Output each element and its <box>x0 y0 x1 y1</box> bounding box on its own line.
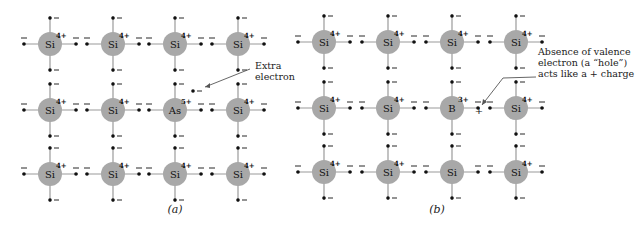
atom-charge: 4+ <box>56 97 67 106</box>
electron-dot <box>360 40 364 44</box>
electron-dot <box>450 14 454 18</box>
atom-symbol: Si <box>233 39 243 50</box>
atom-charge: 4+ <box>119 97 130 106</box>
electron-dot <box>48 68 52 72</box>
electron-dot <box>111 198 115 202</box>
atom-symbol: Si <box>170 39 180 50</box>
electron-dot <box>22 172 26 176</box>
atom-charge: 4+ <box>181 161 192 170</box>
atom-charge: 4+ <box>119 161 130 170</box>
atom-symbol: Si <box>170 169 180 180</box>
atom-charge: 4+ <box>458 29 469 38</box>
atom-symbol: Si <box>511 167 521 178</box>
atom-symbol: Si <box>447 167 457 178</box>
atom-symbol: Si <box>383 167 393 178</box>
electron-dot <box>540 170 544 174</box>
electron-dot <box>22 42 26 46</box>
atom-symbol: Si <box>108 105 118 116</box>
electron-dot <box>450 144 454 148</box>
atom-charge: 3+ <box>458 95 469 104</box>
electron-dot <box>514 80 518 84</box>
electron-dot <box>48 82 52 86</box>
electron-dot <box>210 42 214 46</box>
atom-symbol: Si <box>45 169 55 180</box>
electron-dot <box>322 14 326 18</box>
annotation-text: acts like a + charge <box>538 68 635 79</box>
electron-dot <box>173 16 177 20</box>
electron-dot <box>360 170 364 174</box>
electron-dot <box>262 172 266 176</box>
electron-dot <box>85 42 89 46</box>
electron-dot <box>111 146 115 150</box>
electron-dot <box>514 14 518 18</box>
electron-dot <box>296 170 300 174</box>
atom-charge: 4+ <box>330 95 341 104</box>
electron-dot <box>262 108 266 112</box>
electron-dot <box>85 172 89 176</box>
atom-symbol: Si <box>319 167 329 178</box>
atom-symbol: Si <box>511 103 521 114</box>
atom-charge: 4+ <box>330 29 341 38</box>
atom-symbol: B <box>448 103 455 114</box>
electron-dot <box>514 132 518 136</box>
atom-symbol: Si <box>319 37 329 48</box>
atom-charge: 4+ <box>244 97 255 106</box>
electron-dot <box>199 108 203 112</box>
atom-symbol: Si <box>383 37 393 48</box>
atom-charge: 4+ <box>522 95 533 104</box>
electron-dot <box>111 16 115 20</box>
electron-dot <box>412 106 416 110</box>
electron-dot <box>236 68 240 72</box>
atom-charge: 4+ <box>56 31 67 40</box>
arrowhead-icon <box>205 83 210 88</box>
atom-symbol: As <box>168 105 181 116</box>
electron-dot <box>386 66 390 70</box>
electron-dot <box>488 106 492 110</box>
electron-dot <box>322 196 326 200</box>
electron-dot <box>514 66 518 70</box>
electron-dot <box>322 80 326 84</box>
atom-charge: 4+ <box>244 31 255 40</box>
electron-dot <box>412 40 416 44</box>
panel-caption: (b) <box>429 203 445 216</box>
panel-b-p-type-lattice: Si4+Si4+Si4+Si4+Si4+Si4+B3+Si4+Si4+Si4+S… <box>295 14 635 216</box>
atom-charge: 4+ <box>181 31 192 40</box>
electron-dot <box>450 196 454 200</box>
atom-symbol: Si <box>511 37 521 48</box>
electron-dot <box>173 198 177 202</box>
electron-dot <box>424 40 428 44</box>
electron-dot <box>48 16 52 20</box>
electron-dot <box>476 170 480 174</box>
electron-dot <box>236 146 240 150</box>
panel-a-n-type-lattice: Si4+Si4+Si4+Si4+Si4+Si4+As5+Si4+Si4+Si4+… <box>21 16 295 216</box>
atom-symbol: Si <box>45 39 55 50</box>
electron-dot <box>147 42 151 46</box>
annotation-text: Extra <box>255 60 282 71</box>
electron-dot <box>48 198 52 202</box>
atom-charge: 4+ <box>394 29 405 38</box>
atom-symbol: Si <box>233 169 243 180</box>
electron-dot <box>488 170 492 174</box>
atom-charge: 4+ <box>244 161 255 170</box>
electron-dot <box>450 80 454 84</box>
atom-charge: 4+ <box>522 159 533 168</box>
atom-symbol: Si <box>319 103 329 114</box>
electron-dot <box>137 108 141 112</box>
electron-dot <box>111 82 115 86</box>
electron-dot <box>236 134 240 138</box>
atom-symbol: Si <box>383 103 393 114</box>
electron-dot <box>173 82 177 86</box>
electron-dot <box>48 146 52 150</box>
electron-dot <box>236 198 240 202</box>
electron-dot <box>137 42 141 46</box>
electron-dot <box>348 170 352 174</box>
electron-dot <box>476 40 480 44</box>
panel-caption: (a) <box>167 203 182 216</box>
electron-dot <box>199 42 203 46</box>
electron-dot <box>85 108 89 112</box>
atom-symbol: Si <box>108 169 118 180</box>
electron-dot <box>173 146 177 150</box>
electron-dot <box>348 106 352 110</box>
electron-dot <box>322 144 326 148</box>
electron-dot <box>424 170 428 174</box>
